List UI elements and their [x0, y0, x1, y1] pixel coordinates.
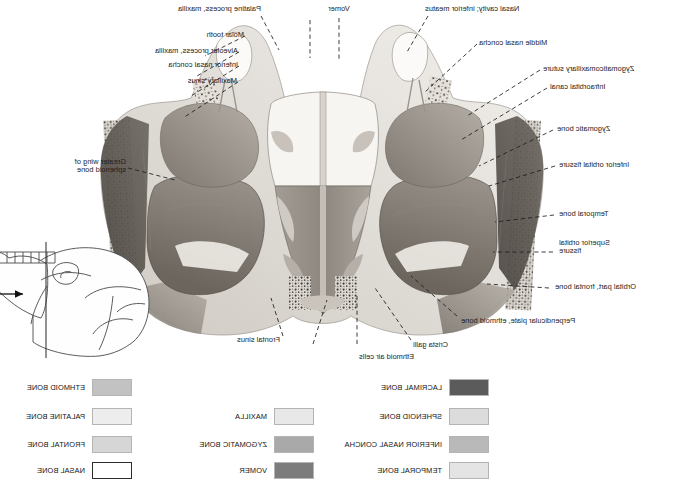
legend-item-frontal-bone[interactable]: FRONTAL BONE	[27, 436, 132, 453]
legend-item-zygomatic-bone[interactable]: ZYGOMATIC BONE	[199, 436, 314, 453]
legend-label-vomer: VOMER	[239, 466, 267, 475]
legend-label-lacrimal-bone: LACRIMAL BONE	[381, 383, 442, 392]
legend-label-frontal-bone: FRONTAL BONE	[27, 440, 85, 449]
legend-swatch-nasal-bone	[92, 462, 132, 479]
legend-label-temporal-bone: TEMPORAL BONE	[377, 466, 442, 475]
legend-label-ethmoid-bone: ETHMOID BONE	[27, 383, 85, 392]
legend-item-inferior-nasal-concha[interactable]: INFERIOR NASAL CONCHA	[344, 436, 489, 453]
legend-item-vomer[interactable]: VOMER	[239, 462, 314, 479]
legend-item-nasal-bone[interactable]: NASAL BONE	[37, 462, 132, 479]
legend-swatch-inferior-nasal-concha	[449, 436, 489, 453]
legend-swatch-frontal-bone	[92, 436, 132, 453]
legend-label-palatine-bone: PALATINE BONE	[26, 412, 85, 421]
legend-label-zygomatic-bone: ZYGOMATIC BONE	[199, 440, 267, 449]
legend-swatch-vomer	[274, 462, 314, 479]
legend-item-lacrimal-bone[interactable]: LACRIMAL BONE	[381, 379, 489, 396]
legend-item-temporal-bone[interactable]: TEMPORAL BONE	[377, 462, 489, 479]
legend-swatch-palatine-bone	[92, 408, 132, 425]
legend-item-ethmoid-bone[interactable]: ETHMOID BONE	[27, 379, 132, 396]
anatomy-figure: Nasal cavity; inferior meatus Vomer Pala…	[0, 0, 675, 488]
legend-swatch-temporal-bone	[449, 462, 489, 479]
legend-label-inferior-nasal-concha: INFERIOR NASAL CONCHA	[344, 440, 442, 449]
legend-swatch-ethmoid-bone	[92, 379, 132, 396]
legend-swatch-zygomatic-bone	[274, 436, 314, 453]
legend-label-sphenoid-bone: SPHENOID BONE	[379, 412, 442, 421]
legend-item-maxilla[interactable]: MAXILLA	[235, 408, 314, 425]
legend-item-sphenoid-bone[interactable]: SPHENOID BONE	[379, 408, 489, 425]
legend-swatch-maxilla	[274, 408, 314, 425]
legend-label-nasal-bone: NASAL BONE	[37, 466, 85, 475]
legend-swatch-lacrimal-bone	[449, 379, 489, 396]
legend-swatch-sphenoid-bone	[449, 408, 489, 425]
legend-label-maxilla: MAXILLA	[235, 412, 267, 421]
mirrored-figure-canvas: Nasal cavity; inferior meatus Vomer Pala…	[0, 0, 675, 488]
legend-item-palatine-bone[interactable]: PALATINE BONE	[26, 408, 132, 425]
